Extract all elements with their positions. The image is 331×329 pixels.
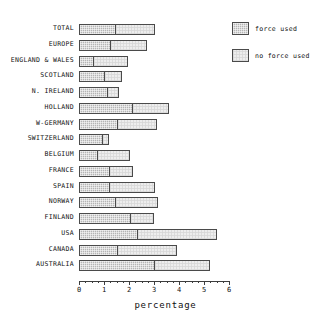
x-axis-tick-label: 4 xyxy=(169,286,189,294)
bar-segment-force-used xyxy=(80,246,118,255)
category-label: ENGLAND & WALES xyxy=(11,55,74,66)
bar-segment-no-force-used xyxy=(116,198,157,207)
x-axis-tick-label: 2 xyxy=(119,286,139,294)
legend-swatch-force-used xyxy=(232,22,249,35)
bar-segment-force-used xyxy=(80,41,111,50)
category-label: USA xyxy=(61,228,74,239)
chart-row: CANADA xyxy=(79,245,229,256)
legend-swatch-no-force-used xyxy=(232,49,249,62)
bar-segment-no-force-used xyxy=(105,72,121,81)
x-axis-minor-tick xyxy=(223,281,224,283)
chart-row: BELGIUM xyxy=(79,150,229,161)
chart-row: FRANCE xyxy=(79,166,229,177)
stacked-bar xyxy=(79,40,147,51)
category-label: SWITZERLAND xyxy=(28,133,74,144)
stacked-bar xyxy=(79,56,128,67)
x-axis-minor-tick xyxy=(135,281,136,283)
bar-segment-force-used xyxy=(80,230,138,239)
stacked-bar xyxy=(79,24,155,35)
bar-segment-no-force-used xyxy=(155,261,209,270)
x-axis-tick xyxy=(229,281,230,285)
stacked-bar xyxy=(79,134,109,145)
stacked-bar xyxy=(79,119,157,130)
x-axis-minor-tick xyxy=(185,281,186,283)
bar-segment-force-used xyxy=(80,57,94,66)
bar-segment-force-used xyxy=(80,183,110,192)
category-label: EUROPE xyxy=(49,39,74,50)
stacked-bar xyxy=(79,197,158,208)
chart-row: ENGLAND & WALES xyxy=(79,56,229,67)
bar-segment-no-force-used xyxy=(108,88,119,97)
bar-segment-no-force-used xyxy=(94,57,127,66)
category-label: CANADA xyxy=(49,244,74,255)
x-axis-tick xyxy=(104,281,105,285)
x-axis-tick xyxy=(129,281,130,285)
x-axis-tick xyxy=(179,281,180,285)
chart-row: AUSTRALIA xyxy=(79,260,229,271)
bar-segment-no-force-used xyxy=(116,25,154,34)
bar-segment-no-force-used xyxy=(111,41,145,50)
chart-row: NORWAY xyxy=(79,197,229,208)
bar-segment-force-used xyxy=(80,104,133,113)
legend-label-no-force-used: no force used xyxy=(255,52,310,60)
x-axis-minor-tick xyxy=(160,281,161,283)
stacked-bar-chart: TOTALEUROPEENGLAND & WALESSCOTLANDN. IRE… xyxy=(0,0,331,329)
chart-row: FINLAND xyxy=(79,213,229,224)
chart-row: USA xyxy=(79,229,229,240)
x-axis-tick-label: 6 xyxy=(219,286,239,294)
x-axis-tick-label: 1 xyxy=(94,286,114,294)
x-axis-minor-tick xyxy=(85,281,86,283)
bar-segment-force-used xyxy=(80,25,116,34)
bar-segment-no-force-used xyxy=(118,120,156,129)
x-axis-minor-tick xyxy=(117,281,118,283)
category-label: SCOTLAND xyxy=(40,70,74,81)
x-axis-title: percentage xyxy=(0,300,331,310)
x-axis-minor-tick xyxy=(167,281,168,283)
x-axis-minor-tick xyxy=(192,281,193,283)
category-label: NORWAY xyxy=(49,196,74,207)
chart-row: SCOTLAND xyxy=(79,71,229,82)
x-axis-tick xyxy=(79,281,80,285)
category-label: AUSTRALIA xyxy=(36,259,74,270)
bar-segment-force-used xyxy=(80,198,116,207)
category-label: SPAIN xyxy=(53,181,74,192)
bar-segment-force-used xyxy=(80,261,155,270)
x-axis-minor-tick xyxy=(142,281,143,283)
category-label: N. IRELAND xyxy=(32,86,74,97)
bar-segment-no-force-used xyxy=(103,135,109,144)
chart-row: SWITZERLAND xyxy=(79,134,229,145)
x-axis-minor-tick xyxy=(98,281,99,283)
x-axis-tick-label: 5 xyxy=(194,286,214,294)
category-label: TOTAL xyxy=(53,23,74,34)
stacked-bar xyxy=(79,166,133,177)
stacked-bar xyxy=(79,71,122,82)
x-axis-tick xyxy=(204,281,205,285)
bar-segment-no-force-used xyxy=(118,246,176,255)
x-axis-minor-tick xyxy=(210,281,211,283)
stacked-bar xyxy=(79,213,154,224)
bar-segment-force-used xyxy=(80,120,118,129)
x-axis-minor-tick xyxy=(110,281,111,283)
x-axis-minor-tick xyxy=(198,281,199,283)
bar-segment-no-force-used xyxy=(131,214,153,223)
chart-row: HOLLAND xyxy=(79,103,229,114)
x-axis-minor-tick xyxy=(173,281,174,283)
bar-segment-force-used xyxy=(80,135,103,144)
stacked-bar xyxy=(79,150,130,161)
legend-label-force-used: force used xyxy=(255,25,297,33)
x-axis-minor-tick xyxy=(217,281,218,283)
x-axis-minor-tick xyxy=(123,281,124,283)
bar-segment-force-used xyxy=(80,88,108,97)
x-axis-tick-label: 3 xyxy=(144,286,164,294)
category-label: HOLLAND xyxy=(45,102,75,113)
bar-segment-no-force-used xyxy=(98,151,130,160)
bar-segment-no-force-used xyxy=(133,104,169,113)
stacked-bar xyxy=(79,229,217,240)
stacked-bar xyxy=(79,182,155,193)
bar-segment-no-force-used xyxy=(110,183,154,192)
bar-segment-no-force-used xyxy=(138,230,216,239)
category-label: W-GERMANY xyxy=(36,118,74,129)
chart-row: EUROPE xyxy=(79,40,229,51)
chart-row: SPAIN xyxy=(79,182,229,193)
chart-row: TOTAL xyxy=(79,24,229,35)
